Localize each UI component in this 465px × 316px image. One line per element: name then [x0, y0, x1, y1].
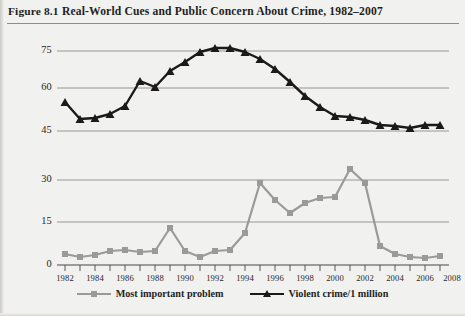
x-tick-2002: 2002	[356, 273, 374, 283]
chart-legend: Most important problem Violent crime/1 m…	[0, 288, 465, 299]
x-tick-1998: 1998	[296, 273, 314, 283]
plot-area: 75 60 45 30 15 0 1982 1984 1986 1988 199…	[0, 26, 465, 284]
figure-title-text: Real-World Cues and Public Concern About…	[62, 5, 383, 18]
legend-label-violent-crime: Violent crime/1 million	[289, 288, 389, 299]
x-tick-1994: 1994	[236, 273, 254, 283]
legend-marker-triangle-icon	[250, 289, 284, 299]
x-tick-1984: 1984	[86, 273, 104, 283]
x-tick-1996: 1996	[266, 273, 284, 283]
x-tick-2000: 2000	[326, 273, 344, 283]
x-tick-1992: 1992	[206, 273, 224, 283]
y-tick-45: 45	[26, 124, 52, 135]
legend-marker-square-icon	[77, 289, 111, 299]
y-tick-0: 0	[26, 258, 52, 269]
y-tick-30: 30	[26, 173, 52, 184]
x-tick-2008: 2008	[443, 273, 461, 283]
x-tick-1986: 1986	[116, 273, 134, 283]
y-tick-75: 75	[26, 44, 52, 55]
x-tick-1990: 1990	[176, 273, 194, 283]
figure-title: Figure 8.1 Real-World Cues and Public Co…	[8, 4, 459, 19]
x-tick-2004: 2004	[386, 273, 404, 283]
y-tick-60: 60	[26, 81, 52, 92]
series-line-problem	[65, 169, 440, 258]
legend-item-most-important-problem: Most important problem	[77, 288, 224, 299]
legend-item-violent-crime: Violent crime/1 million	[250, 288, 389, 299]
title-divider	[7, 23, 459, 24]
x-tick-2006: 2006	[416, 273, 434, 283]
y-tick-15: 15	[26, 215, 52, 226]
figure-container: Figure 8.1 Real-World Cues and Public Co…	[0, 0, 465, 316]
chart-svg	[0, 26, 465, 284]
gridlines	[57, 51, 449, 222]
x-axis-ticks	[65, 265, 440, 271]
legend-label-most-important-problem: Most important problem	[116, 288, 224, 299]
x-tick-1988: 1988	[146, 273, 164, 283]
x-tick-1982: 1982	[56, 273, 74, 283]
figure-number: Figure 8.1	[8, 5, 59, 17]
